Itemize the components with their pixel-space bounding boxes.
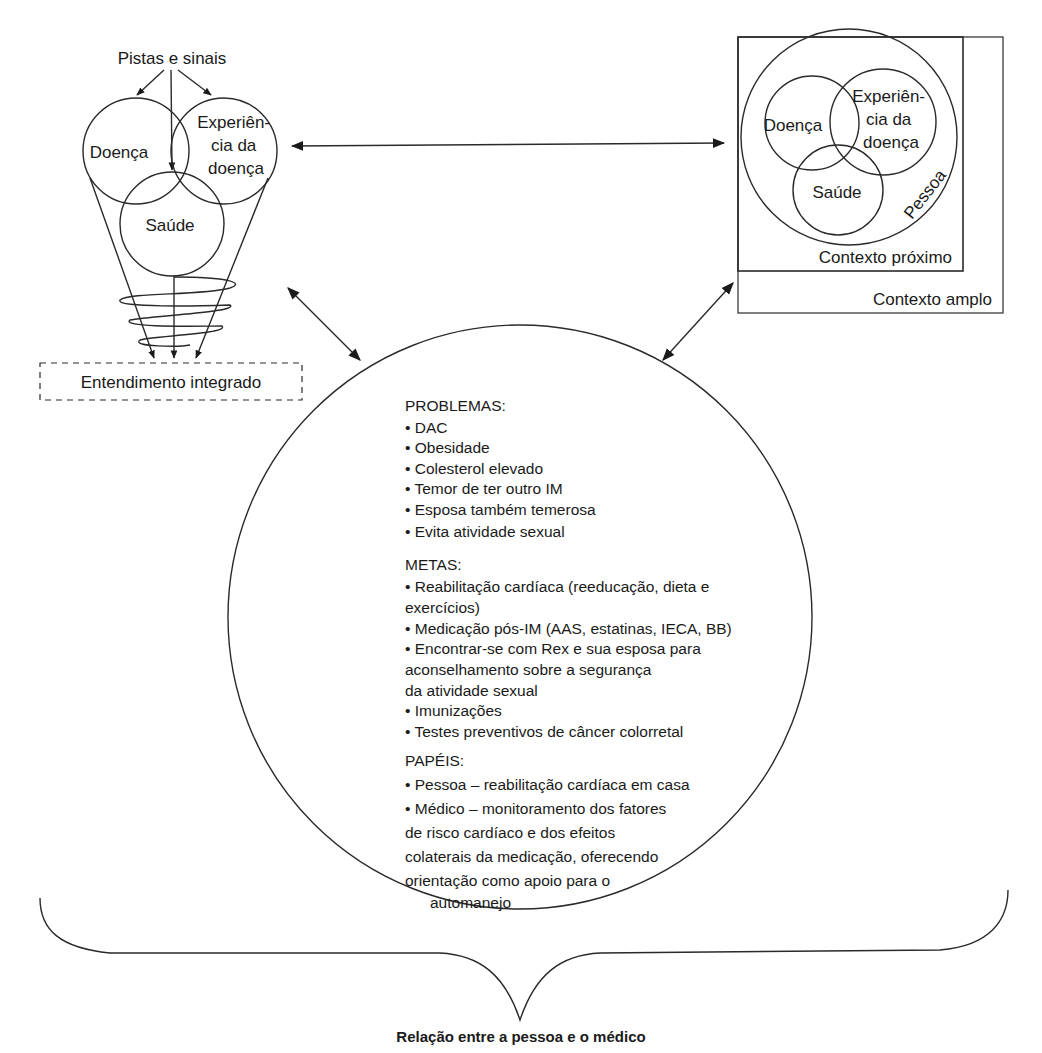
integrated-understanding-label: Entendimento integrado <box>81 373 262 392</box>
patient-centered-diagram: Pistas e sinais Doença Experiên- cia da … <box>0 0 1042 1053</box>
illness-experience-label: Experiên- cia da doença <box>197 113 275 178</box>
health-label: Saúde <box>812 183 861 202</box>
proximal-context-label: Contexto próximo <box>819 248 952 267</box>
relationship-caption: Relação entre a pessoa e o médico <box>396 1028 645 1045</box>
roles-header: PAPÉIS: <box>405 752 464 769</box>
roles-list: • Pessoa – reabilitação cardíaca em casa… <box>405 776 694 911</box>
right-to-common-ground-arrow <box>663 283 733 360</box>
goals-header: METAS: <box>405 556 462 573</box>
cue-arrow-right <box>178 70 211 95</box>
problems-header: PROBLEMAS: <box>405 397 506 414</box>
common-ground-circle <box>228 325 812 909</box>
cue-arrow-left <box>137 70 164 95</box>
illness-experience-label: Experiên- cia da doença <box>852 87 930 152</box>
disease-label: Doença <box>764 116 823 135</box>
distal-context-label: Contexto amplo <box>873 290 992 309</box>
funnel-line-right <box>196 178 268 358</box>
goals-list: • Reabilitação cardíaca (reeducação, die… <box>405 578 736 740</box>
health-label: Saúde <box>145 216 194 235</box>
problems-list: • DAC • Obesidade • Colesterol elevado •… <box>405 419 600 540</box>
person-circle <box>741 29 957 245</box>
left-model: Pistas e sinais Doença Experiên- cia da … <box>40 49 302 400</box>
exploration-link-arrow <box>292 143 724 146</box>
right-model: Doença Experiên- cia da doença Saúde Pes… <box>738 29 1003 313</box>
proximal-context-box <box>738 37 963 271</box>
common-ground: PROBLEMAS: • DAC • Obesidade • Colestero… <box>228 325 812 911</box>
disease-label: Doença <box>90 143 149 162</box>
left-to-common-ground-arrow <box>288 288 360 360</box>
cues-label: Pistas e sinais <box>118 49 227 68</box>
